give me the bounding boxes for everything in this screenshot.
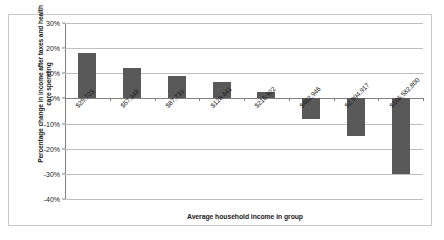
gridline xyxy=(65,149,423,150)
y-axis-tick-mark xyxy=(62,98,65,99)
x-axis-tick-mark xyxy=(155,98,156,101)
x-axis-tick-mark xyxy=(378,98,379,101)
gridline xyxy=(65,124,423,125)
y-axis-tick-label: -20% xyxy=(44,145,60,152)
y-axis-line xyxy=(65,23,66,199)
gridline xyxy=(65,174,423,175)
y-axis-tick-label: 0% xyxy=(50,95,60,102)
gridline xyxy=(65,23,423,24)
x-axis-tick-mark xyxy=(199,98,200,101)
gridline xyxy=(65,48,423,49)
bar xyxy=(392,98,410,173)
y-axis-title: Percentage change in income after taxes … xyxy=(32,4,58,164)
y-axis-tick-label: -40% xyxy=(44,196,60,203)
x-axis-tick-mark xyxy=(244,98,245,101)
y-axis-tick-label: 10% xyxy=(46,70,60,77)
x-axis-title: Average household income in group xyxy=(65,213,425,220)
y-axis-tick-label: 30% xyxy=(46,20,60,27)
y-axis-tick-mark xyxy=(62,199,65,200)
y-axis-tick-label: -10% xyxy=(44,120,60,127)
y-axis-tick-mark xyxy=(62,123,65,124)
x-axis-tick-mark xyxy=(334,98,335,101)
y-axis-tick-label: 20% xyxy=(46,45,60,52)
y-axis-tick-mark xyxy=(62,148,65,149)
y-axis-tick-mark xyxy=(62,173,65,174)
gridline xyxy=(65,73,423,74)
x-axis-tick-mark xyxy=(110,98,111,101)
x-axis-tick-mark xyxy=(423,98,424,101)
y-axis-tick-label: -30% xyxy=(44,170,60,177)
y-axis-tick-mark xyxy=(62,23,65,24)
chart-frame: Percentage change in income after taxes … xyxy=(8,14,432,226)
y-axis-tick-mark xyxy=(62,73,65,74)
x-axis-tick-mark xyxy=(289,98,290,101)
plot-area: 30%20%10%0%-10%-20%-30%-40% $25,723$57,3… xyxy=(65,23,423,199)
y-axis-tick-mark xyxy=(62,48,65,49)
gridline xyxy=(65,199,423,200)
